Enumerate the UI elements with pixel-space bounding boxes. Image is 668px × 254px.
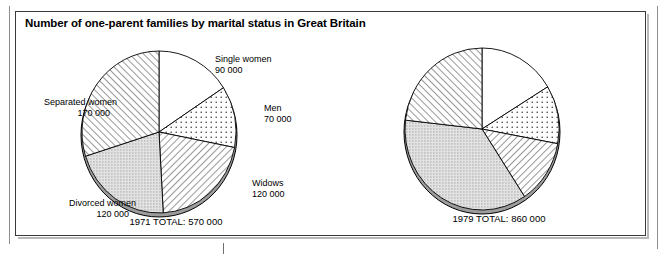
figure-root: Number of one-parent families by marital… bbox=[0, 0, 668, 254]
pie-caption-1971: 1971 TOTAL: 570 000 bbox=[18, 216, 334, 227]
slice-label-single-women-1971: Single women 90 000 bbox=[215, 54, 272, 75]
slice-label-name: Widows bbox=[252, 178, 285, 189]
slice-label-value: 70 000 bbox=[264, 114, 292, 125]
pie-caption-1979: 1979 TOTAL: 860 000 bbox=[341, 213, 657, 224]
panel-shadow-bottom bbox=[18, 237, 649, 239]
slice-label-name: Men bbox=[264, 103, 292, 114]
pie-chart-1979: Single women 140 000 Men 100 000 Widows … bbox=[331, 11, 647, 236]
outer-rule-left bbox=[9, 6, 10, 244]
slice-label-value: 120 000 bbox=[252, 189, 285, 200]
outer-rule-right bbox=[657, 6, 658, 249]
slice-label-widows-1971: Widows 120 000 bbox=[252, 178, 285, 199]
pie-slices-1979 bbox=[405, 48, 559, 210]
slice-label-value: 90 000 bbox=[215, 65, 272, 76]
pie-slice bbox=[405, 48, 482, 129]
pie-svg-1979 bbox=[331, 11, 647, 236]
pie-slices-1971 bbox=[82, 51, 236, 213]
slice-label-name: Separated women bbox=[44, 97, 110, 108]
slice-label-name: Divorced women bbox=[69, 198, 129, 209]
slice-label-name: Single women bbox=[215, 54, 272, 65]
pie-chart-1971: Single women 90 000 Men 70 000 Widows 12… bbox=[15, 11, 331, 236]
panel-shadow-right bbox=[647, 14, 649, 239]
page-tick-mark bbox=[223, 243, 224, 254]
slice-label-separated-women-1971: Separated women 170 000 bbox=[44, 97, 110, 118]
slice-label-value: 170 000 bbox=[44, 108, 110, 119]
slice-label-men-1971: Men 70 000 bbox=[264, 103, 292, 124]
